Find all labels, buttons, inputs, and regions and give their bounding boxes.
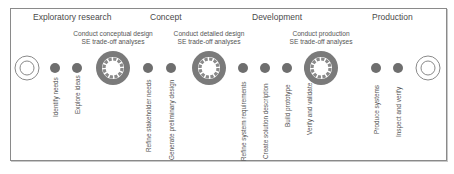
trade-off-cycle-icon: [192, 51, 226, 85]
step-label-inspect-and-verify: Inspect and verify: [395, 87, 402, 137]
step-dot-icon: [238, 63, 248, 73]
step-label-build-prototype: Build prototype: [284, 84, 291, 127]
trade-off-cycle-icon: [304, 51, 338, 85]
step-label-refine-stakeholder-needs: Refine stakeholder needs: [145, 80, 152, 152]
step-label-verify-and-validate: Verify and validate: [306, 83, 313, 135]
step-label-produce-systems: Produce systems: [373, 85, 380, 134]
step-dot-icon: [371, 63, 381, 73]
trade-off-cycle-icon: [96, 51, 130, 85]
lifecycle-graphics: [0, 0, 454, 174]
step-dot-icon: [282, 63, 292, 73]
end-circle-icon: [416, 56, 440, 80]
step-dot-icon: [50, 63, 60, 73]
step-dot-icon: [72, 63, 82, 73]
step-label-generate-preliminary-design: Generate preliminary design: [168, 80, 175, 160]
step-label-create-solution-description: Create solution description: [262, 83, 269, 159]
step-label-identify-needs: Identify needs: [52, 77, 59, 117]
step-label-refine-system-requirements: Refine system requirements: [240, 81, 247, 161]
step-dot-icon: [260, 63, 270, 73]
step-dot-icon: [143, 63, 153, 73]
start-circle-icon: [15, 56, 39, 80]
step-label-explore-ideas: Explore ideas: [74, 75, 81, 114]
step-dot-icon: [393, 63, 403, 73]
step-dot-icon: [166, 63, 176, 73]
